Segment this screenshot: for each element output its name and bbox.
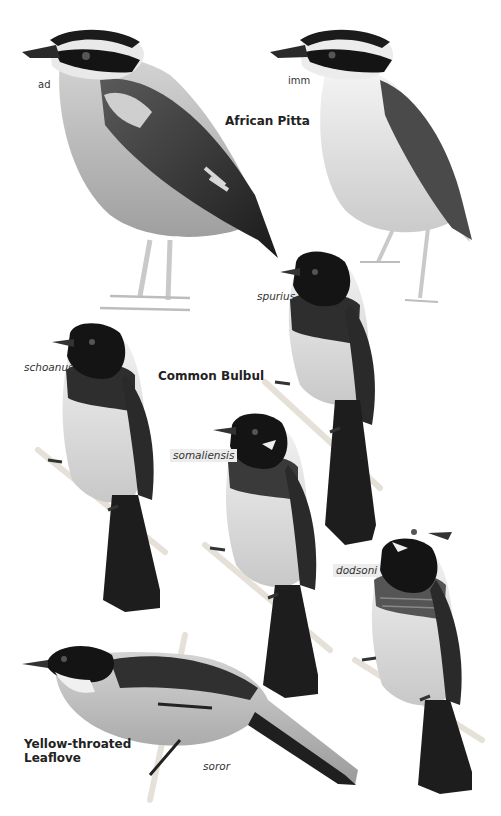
figure-label-soror: soror: [203, 761, 230, 772]
species-name-common-bulbul: Common Bulbul: [158, 370, 264, 382]
species-name-african-pitta: African Pitta: [225, 115, 310, 127]
figure-label-dodsoni: dodsoni: [333, 564, 380, 577]
bird-african-pitta-adult: [22, 30, 278, 310]
figure-label-somaliensis: somaliensis: [170, 449, 237, 462]
species-name-yellow-throated-leaflove: Yellow-throated Leaflove: [24, 737, 134, 765]
figure-label-spurius: spurius: [257, 291, 295, 302]
figure-label-schoanus: schoanus: [24, 362, 74, 373]
figure-label-imm: imm: [288, 76, 310, 86]
figure-label-ad: ad: [38, 80, 50, 90]
